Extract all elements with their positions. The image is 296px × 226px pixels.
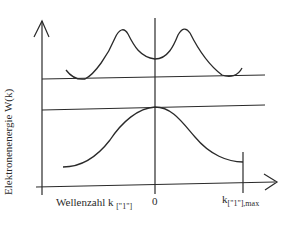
valence-band-curve bbox=[63, 107, 243, 167]
conduction-band-curve bbox=[66, 29, 242, 79]
x-axis-label-main: Wellenzahl k bbox=[56, 196, 113, 208]
y-axis-label: Elektronenenergie W(k) bbox=[2, 89, 14, 195]
x-tick-kmax-sub: ["1"],max bbox=[228, 199, 260, 208]
x-tick-zero: 0 bbox=[152, 195, 158, 207]
x-axis-label-sub: ["1"] bbox=[116, 202, 132, 211]
x-tick-kmax-main: k bbox=[222, 193, 228, 205]
band-structure-diagram: Elektronenenergie W(k) Wellenzahl k ["1"… bbox=[0, 0, 296, 226]
x-tick-kmax: k["1"],max bbox=[222, 193, 259, 205]
x-axis-label: Wellenzahl k ["1"] bbox=[56, 196, 132, 208]
